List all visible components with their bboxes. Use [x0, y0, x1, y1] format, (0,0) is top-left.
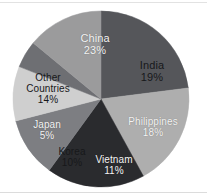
- bottom-rule-divider: [0, 192, 207, 193]
- pie-slices-svg: [0, 0, 207, 195]
- pie-chart-figure: China 23% India 19% Philippines 18% Viet…: [0, 0, 207, 195]
- pie-slice-china: [101, 11, 188, 99]
